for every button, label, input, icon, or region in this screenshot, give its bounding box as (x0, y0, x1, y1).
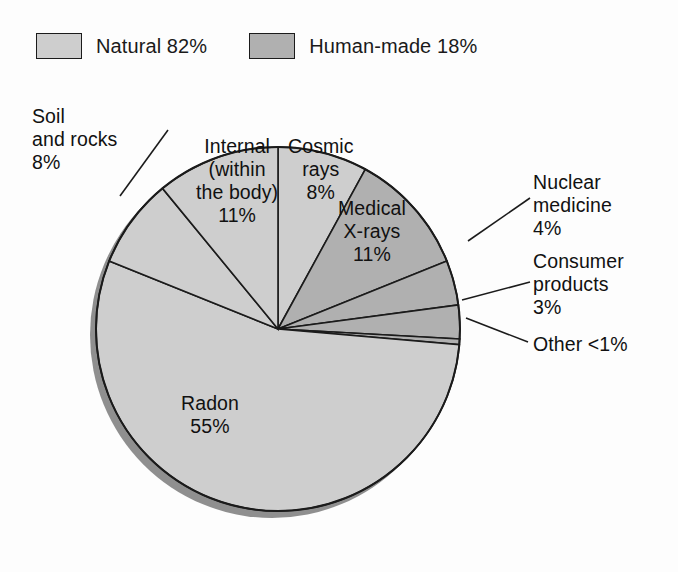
label-consumer-line2: products (533, 273, 624, 296)
legend-item-natural: Natural 82% (36, 33, 207, 59)
label-other: Other <1% (533, 333, 628, 356)
leader-line-nuclear (468, 198, 530, 241)
leader-line-other (466, 318, 528, 342)
label-consumer-products: Consumer products 3% (533, 250, 624, 319)
label-soil-line2: and rocks (32, 128, 117, 151)
label-internal-line1: Internal (196, 135, 278, 158)
legend-label-natural: Natural 82% (96, 35, 207, 58)
label-medical-line1: Medical (338, 197, 406, 220)
label-nuclear-medicine: Nuclear medicine 4% (533, 171, 612, 240)
label-radon: Radon 55% (181, 392, 239, 438)
legend-label-human-made: Human-made 18% (309, 35, 477, 58)
label-cosmic-rays: Cosmic rays 8% (288, 135, 354, 204)
label-internal-line2: (within (196, 158, 278, 181)
legend-swatch-human-made (249, 33, 295, 59)
pie-chart: Soil and rocks 8% Internal (within the b… (0, 0, 678, 572)
label-soil-and-rocks: Soil and rocks 8% (32, 105, 117, 174)
label-medical-xrays: Medical X-rays 11% (338, 197, 406, 266)
label-radon-value: 55% (181, 415, 239, 438)
label-nuclear-line2: medicine (533, 194, 612, 217)
legend-swatch-natural (36, 33, 82, 59)
label-radon-line1: Radon (181, 392, 239, 415)
legend-item-human-made: Human-made 18% (249, 33, 477, 59)
label-soil-line1: Soil (32, 105, 117, 128)
label-cosmic-line2: rays (288, 158, 354, 181)
label-internal-line3: the body) (196, 181, 278, 204)
leader-line-soil (120, 130, 168, 196)
label-internal-value: 11% (196, 204, 278, 227)
label-consumer-value: 3% (533, 296, 624, 319)
label-soil-value: 8% (32, 151, 117, 174)
legend: Natural 82% Human-made 18% (36, 33, 477, 59)
label-nuclear-line1: Nuclear (533, 171, 612, 194)
label-other-text: Other <1% (533, 333, 628, 356)
label-internal: Internal (within the body) 11% (196, 135, 278, 227)
label-cosmic-line1: Cosmic (288, 135, 354, 158)
label-nuclear-value: 4% (533, 217, 612, 240)
label-consumer-line1: Consumer (533, 250, 624, 273)
label-medical-line2: X-rays (338, 220, 406, 243)
leader-line-consumer (462, 282, 530, 300)
label-medical-value: 11% (338, 243, 406, 266)
